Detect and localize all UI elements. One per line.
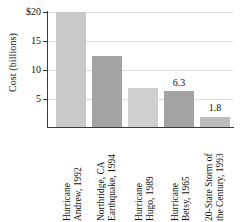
bar-hurricane-hugo: [128, 88, 158, 127]
bar-value-label-betsy: 6.3: [164, 78, 194, 88]
y-tick-label: $20: [0, 7, 41, 17]
category-label-line: 20-State Storm of: [204, 153, 215, 221]
category-label-20-state-storm: 20-State Storm of the Century, 1993: [200, 129, 230, 222]
bar-hurricane-betsy: [164, 91, 194, 127]
bar-northridge-earthquake: [92, 56, 122, 127]
category-label-hurricane-andrew: Hurricane Andrew, 1992: [56, 129, 86, 222]
x-axis-line: [47, 127, 234, 128]
category-label-line: Betsy, 1965: [181, 176, 192, 221]
bar-chart: Cost (billions) $20 15 10 5 6.3 1.8: [0, 0, 240, 222]
category-label-line: Northridge, CA: [96, 154, 107, 221]
y-tick-label: 15: [0, 36, 41, 46]
category-label-hurricane-betsy: Hurricane Betsy, 1965: [164, 129, 194, 222]
bar-20-state-storm: [200, 117, 230, 127]
category-label-line: Hugo, 1989: [145, 176, 156, 221]
y-tick-label: 5: [0, 94, 41, 104]
category-label-line: Hurricane: [134, 176, 145, 221]
category-label-line: Andrew, 1992: [73, 167, 84, 221]
bar-value-label-20-state-storm: 1.8: [200, 103, 230, 113]
category-label-line: Hurricane: [62, 167, 73, 221]
y-tick-label: 10: [0, 65, 41, 75]
category-label-line: Earthquake, 1994: [107, 154, 118, 221]
x-axis-category-labels: Hurricane Andrew, 1992 Northridge, CA Ea…: [47, 129, 233, 222]
bar-hurricane-andrew: [56, 12, 86, 127]
category-label-line: Hurricane: [170, 176, 181, 221]
category-label-northridge-earthquake: Northridge, CA Earthquake, 1994: [92, 129, 122, 222]
category-label-line: the Century, 1993: [215, 153, 226, 221]
category-label-hurricane-hugo: Hurricane Hugo, 1989: [128, 129, 158, 222]
